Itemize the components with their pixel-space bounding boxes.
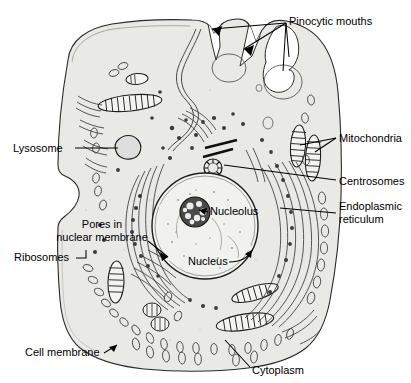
label-centrosomes: Centrosomes <box>339 175 404 187</box>
mitochondrion-round-2 <box>151 317 169 331</box>
label-cytoplasm: Cytoplasm <box>252 364 304 376</box>
label-cell-membrane: Cell membrane <box>25 346 100 358</box>
mitochondrion-round-1 <box>143 303 161 317</box>
label-mitochondria: Mitochondria <box>339 132 402 144</box>
cell-diagram-canvas: Pinocytic mouths Lysosome Mitochondria C… <box>0 0 411 383</box>
label-ribosomes: Ribosomes <box>14 251 69 263</box>
label-pinocytic-mouths: Pinocytic mouths <box>289 15 372 27</box>
label-pores-line2: nuclear membrane <box>56 231 148 243</box>
cell-diagram-svg <box>0 0 411 383</box>
label-pores-line1: Pores in <box>82 218 122 230</box>
lysosome-body <box>115 136 141 160</box>
label-nucleolus: Nucleolus <box>210 205 258 217</box>
label-endoplasmic-reticulum: Endoplasmic reticulum <box>339 200 407 225</box>
label-lysosome: Lysosome <box>13 142 63 154</box>
label-endoplasmic-line1: Endoplasmic <box>339 200 402 212</box>
label-endoplasmic-line2: reticulum <box>339 213 384 225</box>
label-nuclear-pores: Pores in nuclear membrane <box>56 218 148 243</box>
label-nucleus: Nucleus <box>188 255 228 267</box>
